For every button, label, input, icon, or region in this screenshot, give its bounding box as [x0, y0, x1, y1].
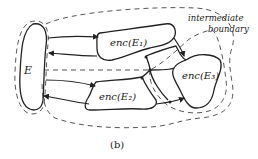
label-enc-e1: enc(E₁) [110, 37, 147, 48]
outer-boundary [42, 8, 233, 128]
label-e: E [23, 64, 32, 77]
label-enc-e2: enc(E₂) [99, 91, 136, 102]
edge-enc2-to-e [44, 96, 89, 104]
edge-enc1-to-enc3 [174, 38, 184, 56]
figure-caption: (b) [110, 139, 124, 150]
annotation-intermediate: intermediate [188, 13, 243, 23]
edge-enc1-to-e [49, 53, 97, 56]
junction-dot [141, 77, 144, 80]
junction-region [142, 46, 186, 100]
edge-e-to-enc1 [48, 36, 98, 38]
annotation-boundary: boundary [208, 24, 249, 34]
label-enc-e3: enc(E₃) [182, 70, 219, 81]
edge-e-to-enc2 [46, 80, 95, 86]
junction-dot [145, 56, 148, 59]
junction-dot [169, 101, 172, 104]
encoding-diagram: E enc(E₁) enc(E₂) enc(E₃) intermediate b… [0, 0, 258, 159]
junction-dot [148, 68, 151, 71]
